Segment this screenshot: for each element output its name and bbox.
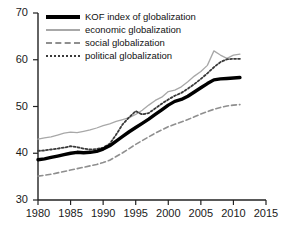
y-tick-label: 40 — [2, 146, 28, 158]
globalization-line-chart: 7060504030 19801985199019952000200520102… — [0, 0, 284, 230]
legend-item-economic: economic globalization — [46, 23, 216, 36]
series-line-political — [38, 59, 240, 151]
y-tick-label: 30 — [2, 193, 28, 205]
legend-item-social: social globalization — [46, 36, 216, 49]
legend-swatch-economic-icon — [46, 24, 80, 35]
y-tick-label: 70 — [2, 6, 28, 18]
legend-label-economic: economic globalization — [80, 24, 181, 35]
x-axis-ticks — [38, 200, 266, 205]
y-tick-label: 60 — [2, 53, 28, 65]
legend-swatch-social-icon — [46, 37, 80, 48]
series-line-social — [38, 105, 240, 177]
legend-item-kof: KOF index of globalization — [46, 10, 216, 23]
legend-swatch-political-icon — [46, 50, 80, 61]
legend-label-political: political globalization — [80, 50, 172, 61]
x-tick-label: 2015 — [246, 207, 284, 219]
chart-legend: KOF index of globalization economic glob… — [46, 10, 216, 62]
data-series-layer — [38, 51, 240, 176]
y-axis-ticks — [33, 13, 38, 200]
legend-item-political: political globalization — [46, 49, 216, 62]
y-tick-label: 50 — [2, 100, 28, 112]
legend-label-kof: KOF index of globalization — [80, 11, 196, 22]
legend-label-social: social globalization — [80, 37, 165, 48]
legend-swatch-kof-icon — [46, 11, 80, 22]
